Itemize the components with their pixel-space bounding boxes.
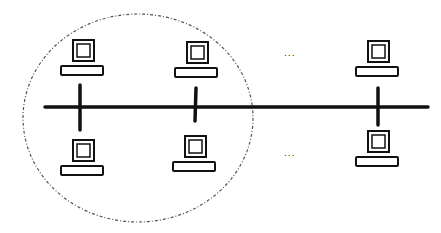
computer-icon xyxy=(173,136,215,171)
computer-icon xyxy=(61,40,103,75)
ellipsis-bottom: ... xyxy=(284,148,296,158)
network-diagram: ... ... xyxy=(0,0,441,233)
computer-icon xyxy=(356,131,398,166)
drop-line-col2 xyxy=(195,88,196,121)
computer-icon xyxy=(61,140,103,175)
group-boundary xyxy=(23,14,253,222)
computer-icon xyxy=(356,41,398,76)
computer-icon xyxy=(175,42,217,77)
ellipsis-top: ... xyxy=(284,48,296,58)
